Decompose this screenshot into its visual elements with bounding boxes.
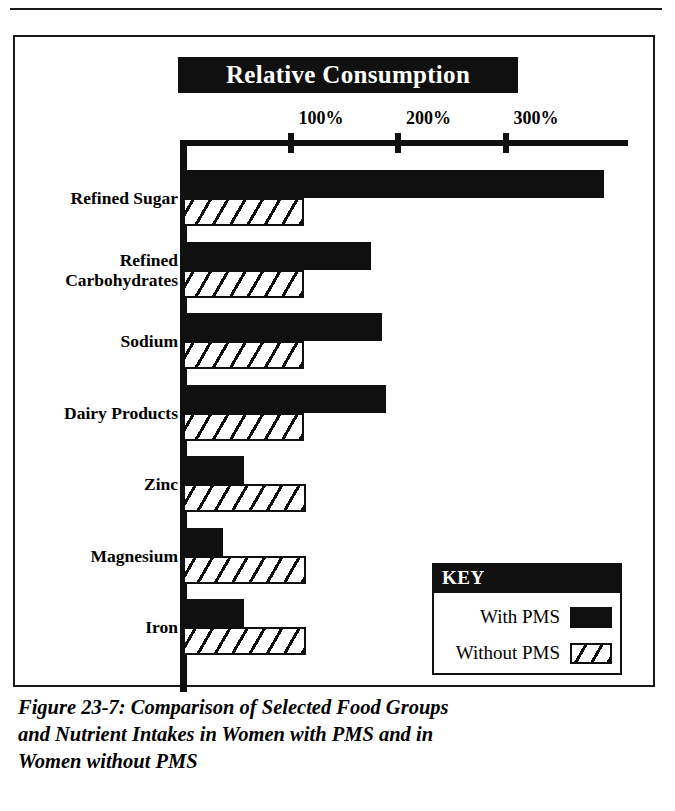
legend-swatch-solid — [570, 607, 612, 628]
legend-swatch-hatch — [570, 643, 612, 664]
legend-items: With PMSWithout PMS — [432, 597, 622, 673]
chart-title-banner: Relative Consumption — [178, 57, 518, 93]
legend-header: KEY — [432, 563, 622, 593]
legend-item: Without PMS — [432, 638, 612, 668]
legend-item-label: With PMS — [480, 606, 560, 628]
page-top-rule — [10, 8, 662, 10]
legend-item: With PMS — [432, 602, 612, 632]
chart-title: Relative Consumption — [226, 61, 470, 89]
legend-item-label: Without PMS — [456, 642, 560, 664]
figure-caption: Figure 23-7: Comparison of Selected Food… — [18, 694, 658, 775]
legend-title: KEY — [432, 567, 485, 589]
figure-root: Relative Consumption 100%200%300%Refined… — [0, 0, 675, 811]
